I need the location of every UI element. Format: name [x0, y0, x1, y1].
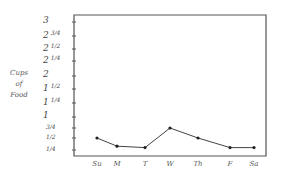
data-point [115, 145, 118, 148]
chart-frame [74, 15, 266, 156]
data-point [228, 146, 231, 149]
data-point [196, 136, 199, 139]
data-point [168, 126, 171, 129]
line-chart [0, 0, 284, 184]
series-line [97, 128, 254, 148]
data-point [95, 136, 98, 139]
data-point [252, 146, 255, 149]
data-point [143, 146, 146, 149]
